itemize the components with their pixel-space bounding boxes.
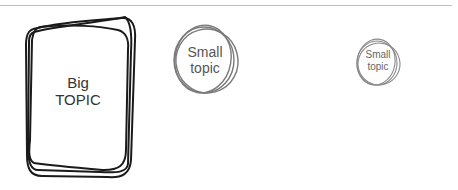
big-topic-line1: Big bbox=[26, 74, 130, 91]
small-topic-line2: topic bbox=[355, 61, 401, 73]
big-topic-line2: TOPIC bbox=[26, 91, 130, 108]
medium-topic-line1: Small bbox=[175, 44, 235, 60]
big-topic-label: Big TOPIC bbox=[26, 74, 130, 109]
medium-topic-line2: topic bbox=[175, 60, 235, 76]
small-topic-line1: Small bbox=[355, 49, 401, 61]
medium-topic-label: Small topic bbox=[175, 44, 235, 76]
small-topic-label: Small topic bbox=[355, 49, 401, 72]
